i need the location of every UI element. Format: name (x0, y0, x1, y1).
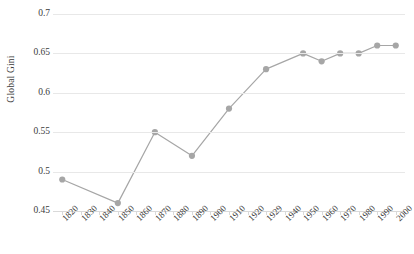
data-point-marker (226, 105, 232, 111)
y-axis-tick-label: 0.65 (6, 48, 50, 58)
gridline-y (53, 132, 405, 133)
data-point-marker (319, 58, 325, 64)
data-point-marker (393, 42, 399, 48)
data-point-marker (59, 176, 65, 182)
series-line (62, 46, 395, 204)
y-axis-tick-label: 0.7 (6, 9, 50, 19)
series-global-gini (53, 14, 405, 211)
y-axis-tick-label: 0.55 (6, 127, 50, 137)
data-point-marker (189, 153, 195, 159)
y-axis-tick-labels: 0.70.650.60.550.50.45 (0, 0, 50, 254)
data-point-marker (263, 66, 269, 72)
gridline-y (53, 93, 405, 94)
y-axis-tick-label: 0.5 (6, 167, 50, 177)
y-axis-tick-label: 0.6 (6, 88, 50, 98)
plot-area (53, 14, 405, 211)
series-markers (59, 42, 399, 206)
gridline-y (53, 53, 405, 54)
x-axis-tick-labels: 1820183018401850186018701880189019001910… (53, 216, 413, 254)
data-point-marker (374, 42, 380, 48)
gridline-y (53, 172, 405, 173)
y-axis-tick-label: 0.45 (6, 206, 50, 216)
data-point-marker (115, 200, 121, 206)
gridline-y (53, 14, 405, 15)
